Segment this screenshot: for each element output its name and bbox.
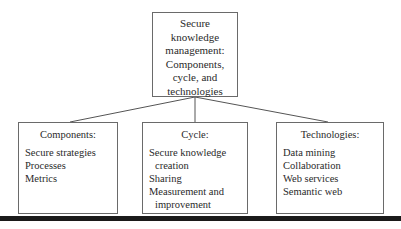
node-item: Collaboration: [283, 159, 377, 172]
root-line: Secure: [153, 17, 237, 31]
node-item: Data mining: [283, 146, 377, 159]
root-line: management:: [153, 44, 237, 58]
connector-technologies: [195, 97, 328, 122]
node-item: Web services: [283, 172, 377, 185]
connector-components: [70, 97, 195, 122]
node-item: creation: [149, 159, 241, 172]
bottom-rule: [0, 216, 401, 221]
root-line: Components,: [153, 58, 237, 72]
cycle-node: Cycle: Secure knowledge creation Sharing…: [142, 122, 248, 214]
root-node: Secure knowledge management: Components,…: [152, 12, 238, 97]
components-node: Components: Secure strategies Processes …: [18, 122, 118, 214]
node-item: Secure strategies: [25, 146, 111, 159]
node-item: Processes: [25, 159, 111, 172]
node-item: Metrics: [25, 172, 111, 185]
node-heading: Technologies:: [283, 128, 377, 141]
node-item: Secure knowledge: [149, 146, 241, 159]
node-item: improvement: [149, 198, 241, 211]
node-item: Semantic web: [283, 185, 377, 198]
root-line: knowledge: [153, 31, 237, 45]
root-line: technologies: [153, 85, 237, 99]
node-heading: Components:: [25, 128, 111, 141]
node-item: Measurement and: [149, 185, 241, 198]
node-item: Sharing: [149, 172, 241, 185]
root-line: cycle, and: [153, 71, 237, 85]
technologies-node: Technologies: Data mining Collaboration …: [276, 122, 384, 214]
node-heading: Cycle:: [149, 128, 241, 141]
